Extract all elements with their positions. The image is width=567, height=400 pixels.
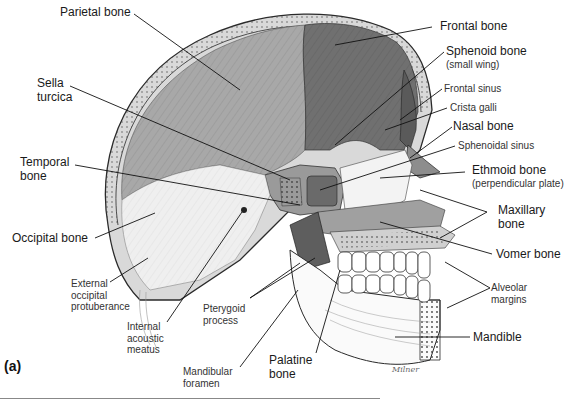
label-sphenoid-sub: (small wing) — [446, 59, 527, 71]
label-vomer-bone: Vomer bone — [496, 248, 561, 262]
label-mand-foramen-line2: foramen — [183, 378, 220, 389]
label-temporal-line1: Temporal — [20, 155, 69, 169]
label-int-acoustic-line3: meatus — [127, 344, 160, 355]
label-ext-occ-line3: protuberance — [71, 301, 130, 312]
label-mandible: Mandible — [473, 331, 522, 345]
label-parietal-bone: Parietal bone — [60, 6, 131, 20]
label-mandibular-foramen: Mandibular foramen — [183, 366, 232, 389]
label-internal-acoustic-meatus: Internal acoustic meatus — [127, 321, 164, 356]
label-pterygoid-line1: Pterygoid — [203, 303, 245, 314]
label-frontal-sinus: Frontal sinus — [444, 83, 501, 95]
label-mand-foramen-line1: Mandibular — [183, 366, 232, 377]
label-external-occipital-protuberance: External occipital protuberance — [71, 278, 130, 313]
label-sphenoid-bone: Sphenoid bone (small wing) — [446, 45, 527, 70]
artist-signature: Milner — [392, 365, 419, 374]
label-palatine-bone: Palatine bone — [269, 354, 312, 382]
label-ethmoid-bone: Ethmoid bone (perpendicular plate) — [472, 164, 564, 189]
label-palatine-line2: bone — [269, 367, 296, 381]
label-ethmoid-sub: (perpendicular plate) — [472, 178, 564, 190]
label-sella-line1: Sella — [37, 76, 64, 90]
label-frontal-bone: Frontal bone — [440, 20, 507, 34]
bottom-rule — [0, 398, 380, 399]
label-sella-line2: turcica — [37, 90, 72, 104]
label-occipital-bone: Occipital bone — [12, 232, 88, 246]
label-sella-turcica: Sella turcica — [37, 77, 72, 105]
label-pterygoid-process: Pterygoid process — [203, 303, 245, 326]
label-int-acoustic-line2: acoustic — [127, 333, 164, 344]
label-ext-occ-line1: External — [71, 278, 108, 289]
label-maxillary-line2: bone — [498, 217, 525, 231]
label-pterygoid-line2: process — [203, 315, 238, 326]
panel-label: (a) — [4, 358, 21, 374]
label-ext-occ-line2: occipital — [71, 290, 107, 301]
label-temporal-line2: bone — [20, 169, 47, 183]
label-maxillary-bone: Maxillary bone — [498, 204, 545, 232]
sphenoidal-sinus-region — [307, 176, 337, 206]
label-temporal-bone: Temporal bone — [20, 156, 69, 184]
label-maxillary-line1: Maxillary — [498, 203, 545, 217]
label-alveolar-line1: Alveolar — [491, 282, 527, 293]
label-alveolar-line2: margins — [491, 294, 527, 305]
label-crista-galli: Crista galli — [450, 102, 497, 114]
label-sphenoidal-sinus: Sphenoidal sinus — [458, 140, 534, 152]
label-int-acoustic-line1: Internal — [127, 321, 160, 332]
label-alveolar-margins: Alveolar margins — [491, 282, 527, 305]
label-ethmoid-text: Ethmoid bone — [472, 163, 546, 177]
label-sphenoid-text: Sphenoid bone — [446, 44, 527, 58]
label-palatine-line1: Palatine — [269, 353, 312, 367]
label-nasal-bone: Nasal bone — [453, 120, 514, 134]
